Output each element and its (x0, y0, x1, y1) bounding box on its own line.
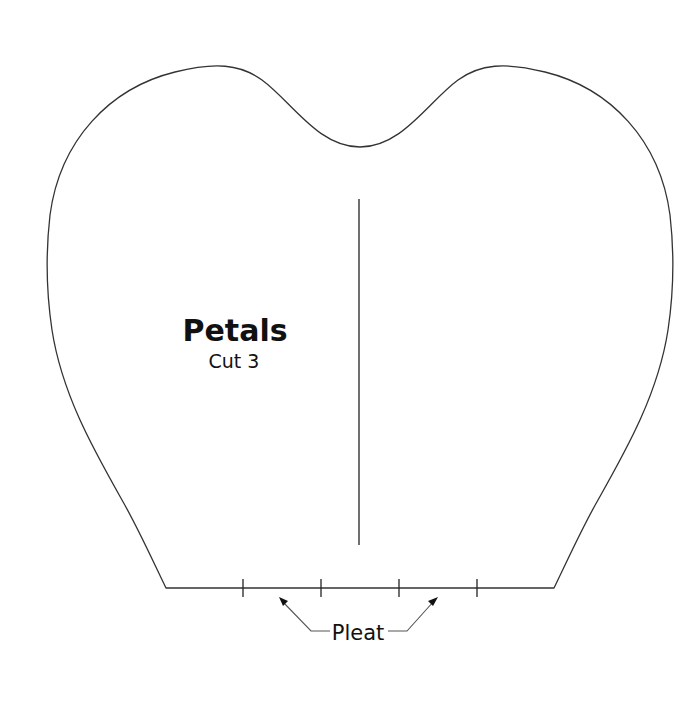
cut-instruction: Cut 3 (209, 350, 260, 372)
pleat-leader-right (388, 601, 434, 631)
pleat-label: Pleat (332, 621, 385, 645)
piece-title: Petals (182, 313, 287, 348)
pattern-piece-diagram: Petals Cut 3 Pleat (0, 0, 696, 707)
arrow-right-icon (428, 597, 438, 606)
arrow-left-icon (279, 597, 288, 606)
petal-outline (47, 66, 673, 588)
pleat-leader-left (282, 601, 330, 631)
